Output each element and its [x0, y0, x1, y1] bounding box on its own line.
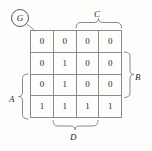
kmap-cell: 1 [54, 96, 77, 118]
variable-label-c: C [94, 10, 100, 19]
output-variable-label: G [17, 13, 24, 23]
variable-label-d: D [70, 133, 77, 142]
brace-a-icon [19, 74, 29, 119]
kmap-cell: 0 [31, 53, 54, 75]
kmap-cell: 0 [99, 53, 122, 75]
kmap-cell: 0 [77, 53, 100, 75]
kmap-cell: 1 [54, 75, 77, 97]
kmap-cell: 1 [77, 96, 100, 118]
kmap-grid: 0 0 0 0 0 1 0 0 0 1 0 0 1 1 1 1 [30, 30, 122, 118]
kmap-cell: 0 [54, 31, 77, 53]
kmap-cell: 0 [99, 31, 122, 53]
kmap-cell: 0 [31, 31, 54, 53]
kmap-cell: 1 [31, 96, 54, 118]
variable-label-a: A [9, 95, 15, 104]
kmap-cell: 0 [31, 75, 54, 97]
kmap-cell: 1 [54, 53, 77, 75]
kmap-cell: 0 [77, 75, 100, 97]
kmap-cell: 1 [99, 96, 122, 118]
variable-label-b: B [135, 73, 141, 82]
brace-d-icon [53, 121, 98, 131]
brace-b-icon [125, 52, 135, 98]
kmap-cell: 0 [99, 75, 122, 97]
kmap-cell: 0 [77, 31, 100, 53]
brace-c-icon [76, 19, 122, 29]
output-variable-badge: G [11, 9, 29, 27]
karnaugh-map-figure: G C B A D 0 0 0 0 0 1 0 0 0 1 0 0 1 1 1 … [0, 0, 152, 151]
